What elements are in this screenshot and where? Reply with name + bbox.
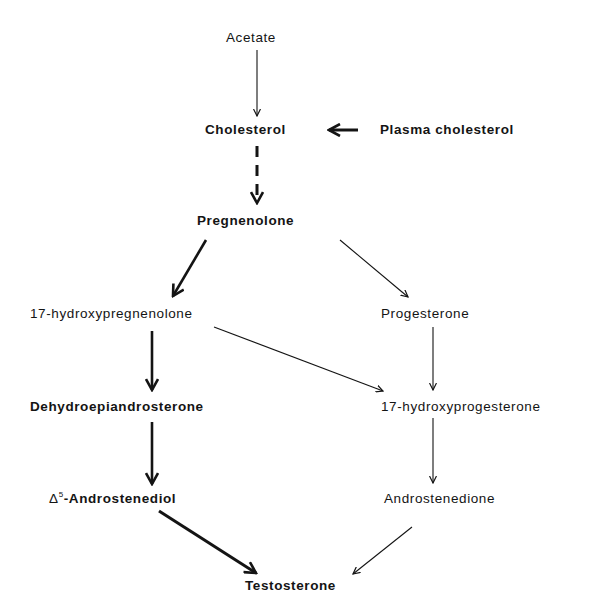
androstenediol-label: -Androstenediol [64, 491, 177, 506]
node-plasma-cholesterol: Plasma cholesterol [380, 122, 514, 137]
node-cholesterol: Cholesterol [205, 122, 286, 137]
arrow-pregnenolone-progesterone [340, 240, 408, 297]
node-dehydroepiandrosterone: Dehydroepiandrosterone [30, 399, 204, 414]
arrow-hydroxypregnenolone-hydroxyprogesterone [214, 327, 383, 391]
node-testosterone: Testosterone [245, 578, 336, 593]
node-androstenediol: Δ5-Androstenediol [49, 490, 176, 506]
steroid-pathway-diagram: Acetate Cholesterol Plasma cholesterol P… [0, 0, 601, 602]
pathway-arrows [0, 0, 601, 602]
arrow-androstenediol-testosterone [159, 511, 256, 573]
delta-symbol: Δ [49, 491, 59, 506]
node-17-hydroxyprogesterone: 17-hydroxyprogesterone [381, 399, 541, 414]
node-androstenedione: Androstenedione [384, 491, 495, 506]
node-acetate: Acetate [226, 30, 276, 45]
node-pregnenolone: Pregnenolone [197, 213, 294, 228]
node-17-hydroxypregnenolone: 17-hydroxypregnenolone [30, 306, 193, 321]
arrow-pregnenolone-hydroxypregnenolone [173, 240, 206, 296]
node-progesterone: Progesterone [381, 306, 469, 321]
arrow-androstenedione-testosterone [353, 527, 412, 574]
